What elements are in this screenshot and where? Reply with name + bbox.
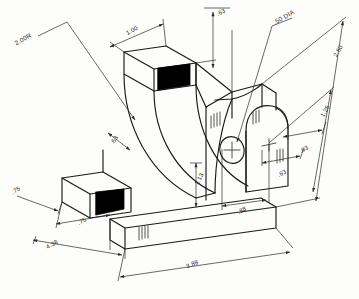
upper-block-shaded-face [158,64,190,90]
dimension-label-left-foot-width: .75 [10,184,22,195]
dimension-label-left-foot-depth: .75 [76,215,88,226]
dimension-label-right-depth-upper: .63 [298,143,310,154]
dim-left-foot-width [17,196,58,211]
dimension-lines [17,8,346,281]
dim-right-depth-lower [262,156,300,163]
dim-hole-height [313,90,331,192]
dimension-label-curve-web-thickness: .63 [109,134,120,146]
dimension-label-overall-depth: 4.38 [45,237,60,250]
through-hole [216,133,247,166]
dimension-text-group: 2.00R1.00.63.50 DIA2.501.25.63.63.631.13… [10,6,344,269]
base-slab [110,198,276,249]
dimension-label-right-depth-lower: .63 [276,167,288,178]
drawing-sheet: 2.00R1.00.63.50 DIA2.501.25.63.63.631.13… [0,0,359,299]
top-rib [196,63,232,107]
dim-right-depth-upper [283,130,322,137]
left-foot-shaded-face [96,189,124,215]
object-geometry [62,46,288,249]
dimension-label-hole-offset: .88 [236,204,248,215]
dimension-label-hole-diameter: .50 DIA [272,8,296,26]
dimension-label-overall-height: 2.50 [332,43,345,58]
dimension-label-overall-length: 3.88 [185,258,200,269]
dim-overall-length [120,252,290,277]
dimension-label-base-height: 1.13 [193,171,205,186]
leader-radius-left [38,22,135,120]
isometric-drawing-canvas: 2.00R1.00.63.50 DIA2.501.25.63.63.631.13… [0,0,359,299]
dimension-label-radius-left: 2.00R [13,31,32,46]
dimension-label-top-depth: 1.00 [125,23,140,36]
